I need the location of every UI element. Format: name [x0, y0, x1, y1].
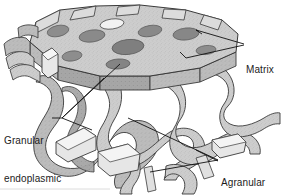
label-granular-line-1: Granular [4, 135, 61, 148]
label-agranular-line-1: Agranular [221, 177, 278, 190]
label-agranular-endoplasmic-reticulum: Agranular endoplasmic reticulum [221, 152, 278, 196]
figure-canvas: Matrix Granular endoplasmic reticulum Ag… [0, 0, 281, 196]
label-matrix-line-1: Matrix [246, 64, 274, 77]
slab-top-surface [30, 5, 238, 76]
label-granular-endoplasmic-reticulum: Granular endoplasmic reticulum [4, 110, 61, 196]
label-granular-line-2: endoplasmic [4, 173, 61, 186]
label-matrix: Matrix [246, 39, 274, 102]
